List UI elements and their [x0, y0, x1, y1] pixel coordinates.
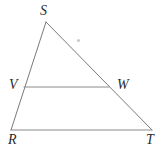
segment-st [46, 22, 152, 130]
vertex-label-t: T [146, 133, 154, 147]
geometry-figure: S V W R T [0, 0, 163, 158]
triangle-drawing [0, 0, 163, 158]
vertex-label-r: R [8, 133, 17, 147]
stray-dot-artifact [77, 39, 80, 42]
segment-sr [11, 22, 46, 130]
vertex-label-v: V [9, 78, 18, 92]
vertex-label-w: W [117, 78, 129, 92]
vertex-label-s: S [40, 4, 47, 18]
